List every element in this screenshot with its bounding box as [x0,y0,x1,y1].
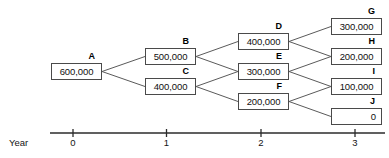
node-box-h[interactable]: 200,000 [331,48,382,65]
edge-b-e [196,57,238,72]
node-label-f: F [238,82,289,91]
decision-tree-diagram: A600,000B500,000C400,000D400,000E300,000… [0,0,389,158]
node-box-c[interactable]: 400,000 [145,78,196,95]
edge-f-i [289,87,331,102]
node-label-c: C [145,67,196,76]
axis-tick-label-2: 2 [249,138,273,148]
node-label-a: A [51,52,102,61]
node-box-f[interactable]: 200,000 [238,93,289,110]
edge-e-h [289,57,331,72]
edge-f-j [289,102,331,117]
edge-d-g [289,27,331,42]
node-label-d: D [238,22,289,31]
node-box-i[interactable]: 100,000 [331,78,382,95]
year-axis-caption: Year [9,138,28,148]
edge-d-h [289,42,331,57]
edge-a-c [102,72,145,87]
edge-a-b [102,57,145,72]
node-label-i: I [331,67,382,76]
node-label-b: B [145,37,196,46]
node-label-e: E [238,52,289,61]
node-label-g: G [331,7,382,16]
edge-c-e [196,72,238,87]
node-box-a[interactable]: 600,000 [51,63,102,80]
node-label-j: J [331,97,382,106]
edge-b-d [196,42,238,57]
axis-tick-label-1: 1 [155,138,179,148]
node-box-e[interactable]: 300,000 [238,63,289,80]
edge-c-f [196,87,238,102]
axis-tick-label-3: 3 [343,138,367,148]
axis-tick-label-0: 0 [61,138,85,148]
edge-e-i [289,72,331,87]
node-box-b[interactable]: 500,000 [145,48,196,65]
node-box-j[interactable]: 0 [331,108,382,125]
node-box-g[interactable]: 300,000 [331,18,382,35]
node-box-d[interactable]: 400,000 [238,33,289,50]
node-label-h: H [331,37,382,46]
